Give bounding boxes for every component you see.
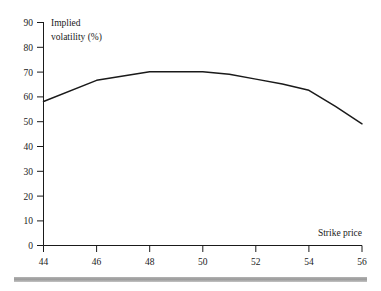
y-tick-label-60: 60 (24, 92, 34, 102)
y-tick-label-10: 10 (24, 216, 34, 226)
x-tick-label-54: 54 (304, 257, 314, 267)
y-axis-title-line2: volatility (%) (51, 32, 102, 43)
y-tick-label-20: 20 (24, 192, 34, 202)
x-tick-label-48: 48 (145, 257, 155, 267)
y-tick-label-30: 30 (24, 167, 34, 177)
implied-volatility-chart: 90 80 70 60 50 40 30 20 10 0 Implied vol… (0, 0, 381, 291)
x-tick-label-52: 52 (251, 257, 261, 267)
y-axis-title-line1: Implied (51, 18, 81, 28)
y-axis: 90 80 70 60 50 40 30 20 10 0 (24, 18, 44, 251)
volatility-smile-line (44, 72, 363, 124)
y-tick-label-50: 50 (24, 117, 34, 127)
x-tick-label-44: 44 (39, 257, 49, 267)
y-tick-label-80: 80 (24, 43, 34, 53)
x-tick-label-46: 46 (92, 257, 102, 267)
bottom-rule-bar (14, 277, 367, 282)
y-tick-label-40: 40 (24, 142, 34, 152)
y-tick-label-70: 70 (24, 68, 34, 78)
x-axis-title: Strike price (318, 228, 362, 238)
x-tick-label-56: 56 (357, 257, 367, 267)
x-axis: 44 46 48 50 52 54 56 (39, 246, 367, 268)
y-axis-title: Implied volatility (%) (51, 18, 102, 43)
y-tick-label-90: 90 (24, 18, 34, 28)
y-tick-label-0: 0 (28, 241, 33, 251)
x-tick-label-50: 50 (198, 257, 208, 267)
